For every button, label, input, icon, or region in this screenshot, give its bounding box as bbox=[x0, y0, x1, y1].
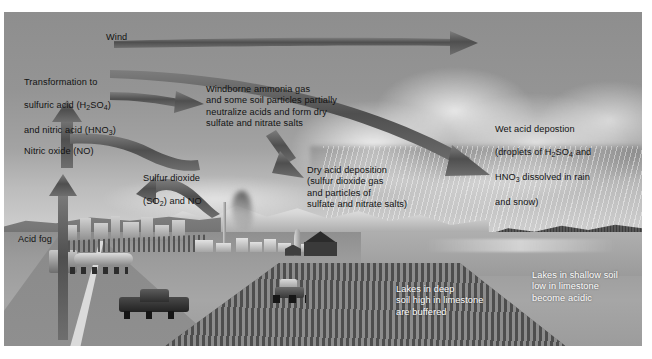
windborne-arrow bbox=[110, 91, 204, 113]
nitric-oxide-up-arrow bbox=[49, 174, 77, 340]
acid-deposition-figure: Wind Transformation to sulfuric acid (H2… bbox=[4, 12, 642, 346]
wind-arrow bbox=[114, 31, 478, 55]
transformation-line-3b: ) bbox=[113, 125, 116, 135]
wet-deposition-line-2c: and bbox=[573, 147, 591, 157]
wet-deposition-line-3b: dissolved in rain bbox=[520, 172, 590, 182]
transformation-line-3a: and nitric acid (HNO bbox=[24, 125, 109, 135]
label-wind: Wind bbox=[106, 32, 127, 43]
label-lakes-deep-soil: Lakes in deep soil high in limestone are… bbox=[396, 284, 484, 318]
dry-deposition-arrow bbox=[266, 130, 304, 178]
wet-deposition-line-1: Wet acid depostion bbox=[495, 124, 575, 134]
label-windborne-ammonia: Windborne ammonia gas and some soil part… bbox=[206, 84, 337, 130]
label-wet-acid-deposition: Wet acid depostion (droplets of H2SO4 an… bbox=[495, 113, 591, 208]
transformation-line-2c: ) bbox=[108, 100, 111, 110]
sulfur-dioxide-line-2b: ) and NO bbox=[164, 196, 202, 206]
transformation-line-2b: SO bbox=[90, 100, 103, 110]
label-transformation: Transformation to sulfuric acid (H2SO4) … bbox=[24, 66, 116, 138]
label-lakes-shallow-soil: Lakes in shallow soil low in limestone b… bbox=[532, 270, 618, 304]
label-dry-acid-deposition: Dry acid deposition (sulfur dioxide gas … bbox=[307, 165, 407, 211]
label-sulfur-dioxide: Sulfur dioxide (SO2) and NO bbox=[143, 162, 202, 210]
wet-deposition-line-4: and snow) bbox=[495, 197, 538, 207]
sulfur-dioxide-line-1: Sulfur dioxide bbox=[143, 173, 200, 183]
transformation-line-2a: sulfuric acid (H bbox=[24, 100, 86, 110]
transformation-line-1: Transformation to bbox=[24, 77, 97, 87]
wet-deposition-line-2a: (droplets of H bbox=[495, 147, 552, 157]
wet-deposition-line-3a: HNO bbox=[495, 172, 516, 182]
sulfur-dioxide-line-2a: (SO bbox=[143, 196, 160, 206]
label-nitric-oxide: Nitric oxide (NO) bbox=[24, 146, 94, 157]
label-acid-fog: Acid fog bbox=[18, 234, 52, 245]
wet-deposition-line-2b: SO bbox=[556, 147, 569, 157]
